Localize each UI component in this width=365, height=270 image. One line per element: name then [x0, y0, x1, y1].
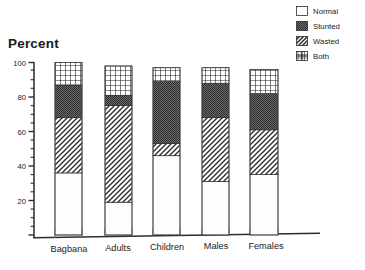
y-tick-label-100: 100 [13, 59, 26, 68]
bar-group-adults[interactable] [105, 66, 132, 235]
legend-swatch-wasted [297, 37, 308, 46]
y-tick-label-40: 40 [18, 162, 26, 171]
legend-label-wasted: Wasted [313, 37, 339, 46]
x-tick-label-bagbana: Bagbana [51, 244, 89, 254]
x-tick-label-females: Females [248, 241, 284, 251]
legend-item-stunted[interactable]: Stunted [297, 22, 340, 32]
legend-swatch-normal [297, 7, 308, 16]
bar-segment-normal[interactable] [105, 202, 132, 235]
y-tick-label-60: 60 [18, 128, 26, 137]
bar-segment-both[interactable] [250, 69, 278, 93]
legend-item-both[interactable]: Both [297, 52, 330, 62]
bar-group-children[interactable] [153, 68, 180, 235]
bar-segment-wasted[interactable] [250, 130, 278, 175]
x-tick-label-children: Children [150, 242, 184, 252]
chart-container: Percent [0, 0, 365, 270]
bar-segment-stunted[interactable] [105, 95, 132, 105]
legend-item-normal[interactable]: Normal [297, 7, 339, 17]
x-tick-label-males: Males [204, 241, 229, 251]
bar-segment-stunted[interactable] [55, 85, 82, 118]
legend-item-wasted[interactable]: Wasted [297, 37, 340, 47]
bar-segment-normal[interactable] [202, 182, 229, 236]
bar-segment-stunted[interactable] [250, 94, 278, 130]
legend-label-both: Both [313, 52, 329, 61]
bar-segment-normal[interactable] [153, 156, 180, 235]
bar-segment-normal[interactable] [250, 175, 278, 235]
bar-segment-wasted[interactable] [105, 106, 132, 203]
legend-label-stunted: Stunted [313, 22, 340, 31]
bar-segment-wasted[interactable] [55, 118, 82, 173]
chart-title: Percent [8, 36, 59, 51]
bar-group-males[interactable] [202, 68, 229, 235]
bar-segment-stunted[interactable] [153, 82, 180, 144]
bar-segment-wasted[interactable] [202, 118, 229, 182]
y-tick-label-20: 20 [18, 197, 26, 206]
stacked-bar-chart: Percent [0, 0, 365, 270]
bar-segment-stunted[interactable] [202, 83, 229, 118]
legend-label-normal: Normal [313, 7, 338, 16]
bar-segment-both[interactable] [202, 68, 229, 84]
bar-segment-normal[interactable] [55, 173, 82, 235]
bar-segment-both[interactable] [55, 63, 82, 85]
x-tick-label-adults: Adults [105, 243, 131, 253]
y-tick-label-80: 80 [18, 93, 26, 102]
bar-group-females[interactable] [250, 69, 278, 235]
bar-segment-both[interactable] [153, 68, 180, 82]
legend-swatch-stunted [297, 22, 308, 31]
bar-segment-wasted[interactable] [153, 144, 180, 156]
bar-group-bagbana[interactable] [55, 63, 82, 236]
bar-segment-both[interactable] [105, 66, 132, 95]
